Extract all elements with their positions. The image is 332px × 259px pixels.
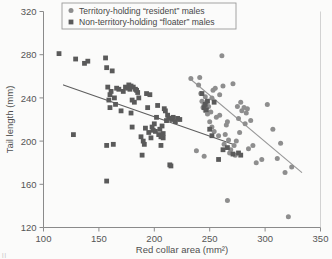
- data-point: [234, 139, 239, 144]
- scatter-plot-figure: 120160200240280320100150200250300350Red …: [0, 0, 332, 259]
- data-point: [139, 134, 144, 139]
- legend-label-0: Territory-holding “resident” males: [79, 6, 205, 16]
- data-point: [140, 153, 145, 158]
- y-tick-label-320: 320: [21, 6, 37, 17]
- x-tick-label-200: 200: [146, 233, 162, 244]
- series-resident-points: [188, 53, 294, 219]
- data-point: [202, 154, 207, 159]
- data-point: [208, 109, 213, 114]
- data-point: [119, 108, 124, 113]
- data-point: [238, 100, 243, 105]
- data-point: [232, 143, 237, 148]
- data-point: [226, 138, 231, 143]
- data-point: [57, 51, 62, 56]
- data-point: [146, 130, 151, 135]
- data-point: [104, 179, 109, 184]
- data-point: [207, 119, 212, 124]
- x-tick-label-150: 150: [91, 233, 107, 244]
- data-point: [113, 102, 118, 107]
- data-point: [130, 125, 135, 130]
- data-point: [245, 106, 250, 111]
- data-point: [212, 129, 217, 134]
- x-tick-label-100: 100: [36, 233, 52, 244]
- data-point: [209, 95, 214, 100]
- plot-canvas: 120160200240280320100150200250300350Red …: [0, 0, 332, 259]
- data-point: [210, 133, 215, 138]
- data-point: [205, 99, 210, 104]
- y-tick-label-120: 120: [21, 222, 37, 233]
- data-point: [196, 82, 201, 87]
- data-point: [163, 108, 168, 113]
- y-tick-label-240: 240: [21, 93, 37, 104]
- data-point: [223, 132, 228, 137]
- data-point: [259, 157, 264, 162]
- data-point: [244, 111, 249, 116]
- data-point: [160, 124, 165, 129]
- data-point: [130, 98, 135, 103]
- data-point: [159, 143, 164, 148]
- legend-square-marker: [69, 20, 74, 25]
- data-point: [278, 141, 283, 146]
- data-point: [85, 59, 90, 64]
- y-tick-label-200: 200: [21, 136, 37, 147]
- data-point: [220, 84, 225, 89]
- data-point: [109, 89, 114, 94]
- data-point: [237, 130, 242, 135]
- data-point: [225, 145, 230, 150]
- data-point: [155, 103, 160, 108]
- data-point: [230, 81, 235, 86]
- data-point: [231, 152, 236, 157]
- data-point: [217, 92, 222, 97]
- data-point: [212, 100, 217, 105]
- data-point: [135, 90, 140, 95]
- data-point: [219, 53, 224, 58]
- data-point: [169, 164, 174, 169]
- data-point: [116, 87, 121, 92]
- data-point: [204, 107, 209, 112]
- data-point: [136, 96, 141, 101]
- data-point: [243, 121, 248, 126]
- data-point: [106, 98, 111, 103]
- data-point: [216, 157, 221, 162]
- data-point: [171, 115, 176, 120]
- data-point: [112, 96, 117, 101]
- data-point: [246, 146, 251, 151]
- x-axis-title: Red collar area (mm²): [136, 244, 228, 255]
- x-tick-label-300: 300: [257, 233, 273, 244]
- data-point: [110, 69, 115, 74]
- data-point: [105, 85, 110, 90]
- data-point: [129, 111, 134, 116]
- data-point: [177, 117, 182, 122]
- data-point: [154, 115, 159, 120]
- y-tick-label-160: 160: [21, 179, 37, 190]
- data-point: [103, 56, 108, 61]
- data-point: [221, 147, 226, 152]
- data-point: [254, 160, 259, 165]
- y-axis-title: Tail length (mm): [4, 86, 15, 154]
- data-point: [217, 113, 222, 118]
- page-artifact-text: ll: [2, 252, 7, 259]
- data-point: [275, 156, 280, 161]
- data-point: [238, 153, 243, 158]
- data-point: [104, 65, 109, 70]
- data-point: [161, 131, 166, 136]
- data-point: [145, 105, 150, 110]
- data-point: [152, 121, 157, 126]
- data-point: [270, 127, 275, 132]
- data-point: [286, 214, 291, 219]
- data-point: [73, 57, 78, 62]
- data-point: [194, 148, 199, 153]
- data-point: [104, 143, 109, 148]
- legend-label-1: Non-territory-holding “floater” males: [79, 17, 215, 27]
- x-tick-label-350: 350: [313, 233, 329, 244]
- data-point: [147, 92, 152, 97]
- data-point: [197, 75, 202, 80]
- data-point: [207, 127, 212, 132]
- data-point: [248, 118, 253, 123]
- data-point: [236, 116, 241, 121]
- data-point: [143, 126, 148, 131]
- data-point: [250, 143, 255, 148]
- x-tick-label-250: 250: [202, 233, 218, 244]
- data-point: [216, 133, 221, 138]
- legend-circle-marker: [69, 8, 74, 13]
